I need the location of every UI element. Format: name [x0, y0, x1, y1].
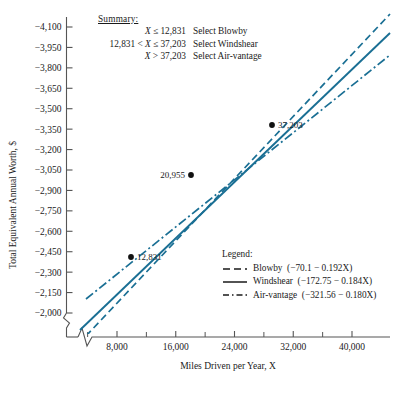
summary-condition: X > 37,203: [62, 50, 186, 62]
summary-block: Summary: X ≤ 12,831Select Blowby12,831 <…: [62, 13, 287, 62]
y-tick-label: −3,800: [35, 63, 62, 73]
x-tick-label: 32,000: [280, 342, 306, 352]
x-axis-title: Miles Driven per Year, X: [180, 361, 276, 371]
legend-series-equation: (−70.1 − 0.192X): [287, 262, 352, 275]
legend-title: Legend:: [222, 248, 376, 261]
legend-series-equation: (−172.75 − 0.184X): [298, 275, 373, 288]
x-tick-label: 16,000: [163, 342, 189, 352]
summary-condition: 12,831 < X ≤ 37,203: [62, 38, 186, 50]
legend-rows: Blowby (−70.1 − 0.192X)Windshear (−172.7…: [222, 262, 376, 302]
chart-container: −2,000−2,150−2,300−2,450−2,600−2,750−2,9…: [0, 0, 401, 393]
legend-series-name: Windshear: [253, 275, 298, 288]
summary-action: Select Blowby: [186, 25, 247, 37]
summary-variable: X: [145, 51, 151, 61]
summary-row: X ≤ 12,831Select Blowby: [62, 25, 287, 37]
y-tick-label: −2,600: [35, 227, 62, 237]
summary-condition: X ≤ 12,831: [62, 25, 186, 37]
x-tick-label: 24,000: [221, 342, 247, 352]
y-tick-label: −4,100: [35, 22, 62, 32]
summary-action: Select Air-vantage: [186, 50, 262, 62]
data-point-label: 37,203: [278, 120, 303, 130]
y-axis: [64, 17, 70, 337]
data-point-marker: [269, 122, 275, 128]
y-tick-label: −3,350: [35, 125, 62, 135]
x-tick-group: 8,00016,00024,00032,00040,000: [88, 331, 366, 352]
y-tick-label: −2,000: [35, 308, 62, 318]
summary-variable: X: [145, 26, 151, 36]
legend-item: Air-vantage (−321.56 − 0.180X): [222, 289, 376, 302]
data-point-label: 12,831: [137, 252, 162, 262]
y-tick-label: −2,300: [35, 268, 62, 278]
data-point-marker: [128, 254, 134, 260]
summary-row: X > 37,203Select Air-vantage: [62, 50, 287, 62]
data-point-marker: [188, 172, 194, 178]
x-tick-label: 8,000: [106, 342, 128, 352]
data-point-label: 20,955: [160, 170, 185, 180]
legend-series-name: Air-vantage: [253, 289, 302, 302]
summary-title: Summary:: [98, 13, 287, 25]
y-axis-title: Total Equivalent Annual Worth, $: [8, 141, 18, 269]
legend-item: Windshear (−172.75 − 0.184X): [222, 275, 376, 288]
y-tick-label: −3,050: [35, 165, 62, 175]
y-tick-label: −2,150: [35, 288, 62, 298]
legend-item: Blowby (−70.1 − 0.192X): [222, 262, 376, 275]
legend-series-equation: (−321.56 − 0.180X): [302, 289, 377, 302]
summary-variable: X: [145, 39, 151, 49]
y-tick-label: −2,900: [35, 186, 62, 196]
y-tick-label: −3,950: [35, 43, 62, 53]
x-tick-label: 40,000: [339, 342, 365, 352]
legend-line-swatch-solid: [222, 277, 248, 287]
legend-line-swatch-dashdot: [222, 290, 248, 300]
summary-rows: X ≤ 12,831Select Blowby12,831 < X ≤ 37,2…: [62, 25, 287, 62]
y-tick-label: −2,450: [35, 247, 62, 257]
y-tick-label: −3,650: [35, 84, 62, 94]
summary-row: 12,831 < X ≤ 37,203Select Windshear: [62, 38, 287, 50]
y-tick-label: −3,200: [35, 145, 62, 155]
summary-action: Select Windshear: [186, 38, 258, 50]
y-tick-label: −3,500: [35, 104, 62, 114]
legend-series-name: Blowby: [253, 262, 287, 275]
legend-block: Legend: Blowby (−70.1 − 0.192X)Windshear…: [222, 248, 376, 302]
y-tick-label: −2,750: [35, 206, 62, 216]
legend-line-swatch-dashed: [222, 264, 248, 274]
